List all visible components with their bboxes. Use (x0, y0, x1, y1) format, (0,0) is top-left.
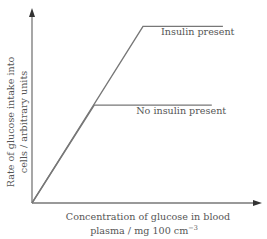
x-axis-label-superscript: −3 (188, 224, 198, 232)
y-axis-label: Rate of glucose intake into cells / arbi… (5, 57, 29, 188)
chart: Insulin presentNo insulin present Rate o… (0, 0, 267, 239)
y-axis-label-line-1: Rate of glucose intake into (5, 57, 16, 188)
x-axis-label-line-2: plasma / mg 100 cm−3 (90, 224, 198, 236)
y-axis-label-line-2: cells / arbitrary units (18, 71, 29, 173)
series-label-insulin-present: Insulin present (161, 26, 235, 37)
x-axis-label-line-1: Concentration of glucose in blood (66, 211, 230, 222)
series-label-no-insulin-present: No insulin present (136, 105, 226, 116)
x-axis-label-line-2-main: plasma / mg 100 cm (90, 225, 188, 236)
labels-layer: Insulin presentNo insulin present (136, 26, 234, 116)
y-axis-arrow-icon (29, 8, 35, 17)
x-axis-label: Concentration of glucose in blood plasma… (66, 211, 230, 236)
series-line-no-insulin-present (32, 105, 212, 203)
x-axis-arrow-icon (253, 200, 262, 206)
